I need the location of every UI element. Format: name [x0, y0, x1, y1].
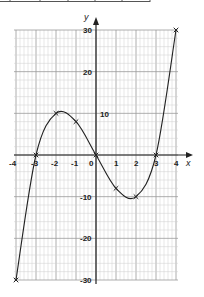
y-tick-label: -30	[80, 276, 92, 285]
y-tick-label: -10	[80, 193, 92, 202]
x-tick-label: 2	[134, 159, 139, 168]
origin-label: 0	[89, 159, 94, 168]
y-tick-label: 10	[100, 110, 109, 119]
x-tick-label: -4	[9, 159, 17, 168]
x-tick-label: 3	[154, 159, 159, 168]
x-tick-label: -3	[31, 159, 39, 168]
chart: y x -4 -3 -2 -1 0 1 2 3 4 30 20 10 -10 -…	[0, 0, 204, 297]
x-tick-label: -1	[71, 159, 79, 168]
y-tick-label: -20	[80, 234, 92, 243]
y-tick-label: 30	[83, 26, 92, 35]
y-axis-label: y	[83, 12, 89, 22]
y-axis-arrow-icon	[93, 17, 99, 25]
x-tick-label: -2	[51, 159, 59, 168]
y-tick-label: 20	[83, 68, 92, 77]
axes	[14, 17, 193, 284]
x-axis-label: x	[185, 158, 191, 168]
x-tick-label: 1	[114, 159, 119, 168]
x-tick-label: 4	[174, 159, 179, 168]
